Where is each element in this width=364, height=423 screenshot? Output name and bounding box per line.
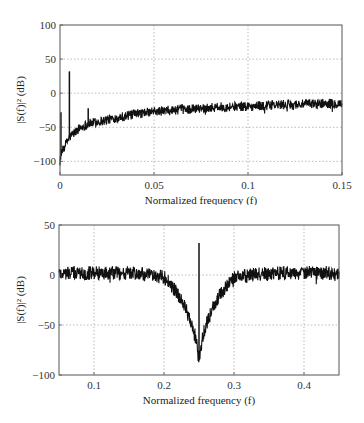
y-axis-label: |S(f)|² (dB) [14, 276, 27, 324]
y-tick-label: 50 [44, 219, 56, 231]
plot-frame [60, 25, 342, 175]
y-tick-label: −50 [38, 319, 56, 331]
y-axis-label: |S(f)|² (dB) [14, 76, 27, 124]
x-tick-label: 0.15 [332, 179, 352, 191]
y-tick-label: 0 [50, 269, 56, 281]
chart-bottom-svg: 0.10.20.30.4−100−50050Normalized frequen… [0, 210, 364, 423]
x-tick-label: 0 [57, 179, 63, 191]
chart-bottom: 0.10.20.30.4−100−50050Normalized frequen… [0, 210, 364, 423]
spectrum-line [60, 99, 342, 166]
x-tick-label: 0.3 [227, 379, 241, 391]
x-tick-label: 0.05 [144, 179, 164, 191]
y-tick-label: 0 [51, 87, 57, 99]
chart-top-svg: 00.050.10.15−100−50050100Normalized freq… [0, 0, 364, 205]
y-tick-label: 50 [45, 53, 57, 65]
x-tick-label: 0.2 [157, 379, 171, 391]
y-tick-label: −100 [33, 155, 56, 167]
x-tick-label: 0.4 [297, 379, 311, 391]
x-axis-label: Normalized frequency (f) [145, 194, 258, 205]
y-tick-label: 100 [40, 19, 57, 31]
x-axis-label: Normalized frequency (f) [143, 394, 256, 407]
x-tick-label: 0.1 [87, 379, 101, 391]
x-tick-label: 0.1 [241, 179, 255, 191]
y-tick-label: −50 [39, 121, 57, 133]
chart-top: 00.050.10.15−100−50050100Normalized freq… [0, 0, 364, 205]
grid [60, 25, 342, 175]
y-tick-label: −100 [32, 369, 55, 381]
